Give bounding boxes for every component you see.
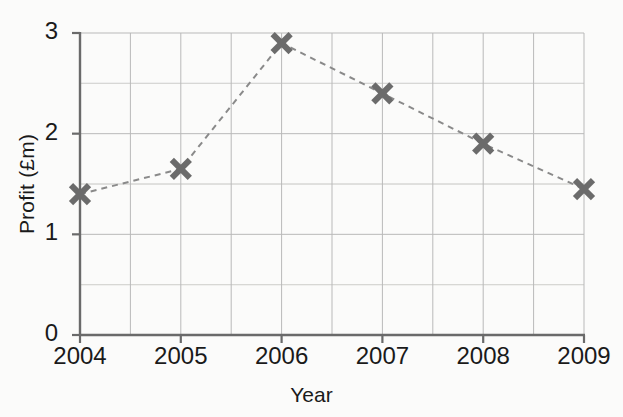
x-tick-label: 2005 — [136, 344, 226, 368]
y-axis-title-text: Profit (£m) — [15, 104, 39, 264]
x-tick-label: 2006 — [237, 344, 327, 368]
x-tick-label: 2004 — [35, 344, 125, 368]
x-tick-label: 2008 — [438, 344, 528, 368]
x-tick-label: 2009 — [539, 344, 623, 368]
x-tick-label: 2007 — [337, 344, 427, 368]
profit-line-chart: 0123 200420052006200720082009 Profit (£m… — [0, 0, 623, 417]
x-axis-title-text: Year — [0, 383, 623, 407]
axis-ticks — [72, 33, 584, 343]
y-axis-title: Profit (£m) — [10, 110, 40, 260]
y-tick-label: 3 — [24, 19, 58, 43]
